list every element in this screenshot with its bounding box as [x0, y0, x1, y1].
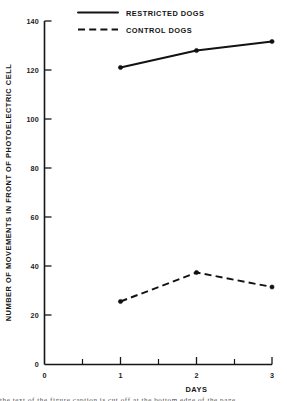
y-tick-label-80: 80 [31, 164, 39, 173]
series-control-dogs [118, 270, 274, 303]
data-point-restricted-day2 [194, 48, 198, 52]
x-tick-label-2: 2 [194, 371, 198, 380]
x-tick-label-1: 1 [118, 371, 122, 380]
x-tick-label-3: 3 [270, 371, 274, 380]
series-line-control-dogs [121, 273, 273, 302]
data-point-restricted-day3 [270, 39, 274, 43]
y-axis-title: NUMBER OF MOVEMENTS IN FRONT OF PHOTOELE… [4, 64, 13, 322]
legend-entry-control-dogs: CONTROL DOGS [78, 26, 192, 35]
data-point-control-day3 [270, 285, 274, 289]
figure-container: RESTRICTED DOGS CONTROL DOGS [0, 0, 287, 401]
y-tick-label-60: 60 [31, 213, 39, 222]
y-tick-label-20: 20 [31, 311, 39, 320]
chart-legend: RESTRICTED DOGS CONTROL DOGS [78, 9, 205, 35]
x-axis-tick-labels: 0 1 2 3 [42, 371, 274, 380]
x-axis-title: DAYS [185, 385, 207, 394]
legend-label-restricted-dogs: RESTRICTED DOGS [126, 9, 205, 18]
cutoff-caption-text: the text of the figure caption is cut of… [0, 396, 287, 401]
y-axis-tick-labels: 140 120 100 80 60 40 20 0 [26, 17, 39, 369]
x-tick-label-0: 0 [42, 371, 46, 380]
chart-axes: 140 120 100 80 60 40 20 0 0 1 2 3 DAYS N… [4, 17, 274, 394]
data-point-control-day2 [194, 270, 198, 274]
x-axis-ticks [83, 357, 273, 365]
y-tick-label-100: 100 [26, 115, 39, 124]
y-tick-label-0: 0 [35, 360, 39, 369]
data-point-control-day1 [118, 299, 122, 303]
data-point-restricted-day1 [118, 65, 122, 69]
series-restricted-dogs [118, 39, 274, 69]
y-tick-label-40: 40 [31, 262, 39, 271]
series-line-restricted-dogs [121, 42, 273, 68]
y-axis-ticks [45, 21, 52, 315]
legend-label-control-dogs: CONTROL DOGS [126, 26, 192, 35]
line-chart: RESTRICTED DOGS CONTROL DOGS [0, 0, 287, 401]
y-tick-label-140: 140 [26, 17, 39, 26]
legend-entry-restricted-dogs: RESTRICTED DOGS [78, 9, 205, 18]
y-tick-label-120: 120 [26, 66, 39, 75]
